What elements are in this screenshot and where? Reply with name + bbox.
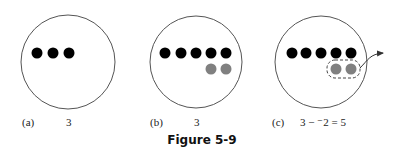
panel-c-expression: 3 − ⁻2 = 5	[300, 116, 346, 128]
positive-chip	[160, 48, 171, 59]
positive-chip	[48, 48, 59, 59]
panel-a-label: (a)	[22, 116, 35, 129]
positive-chip	[316, 48, 327, 59]
panel-c-circle	[275, 16, 367, 108]
negative-chip	[346, 64, 357, 75]
panel-a-circle	[21, 15, 115, 109]
positive-chip	[176, 48, 187, 59]
panel-b-expression: 3	[194, 116, 200, 128]
positive-chip	[331, 48, 342, 59]
figure-caption: Figure 5-9	[167, 133, 236, 147]
positive-chip	[191, 48, 202, 59]
negative-chip	[221, 64, 232, 75]
negative-chip	[331, 64, 342, 75]
positive-chip	[32, 48, 43, 59]
remove-arrow-icon	[360, 53, 383, 68]
positive-chip	[64, 48, 75, 59]
figure-5-9-diagram: (a) 3 (b) 3 (c) 3 − ⁻2 = 5 Figure 5-9	[0, 0, 404, 149]
positive-chip	[206, 48, 217, 59]
panel-b-circle	[150, 16, 242, 108]
positive-chip	[287, 48, 298, 59]
positive-chip	[221, 48, 232, 59]
panel-c-label: (c)	[272, 116, 285, 129]
panel-b-label: (b)	[150, 116, 163, 129]
positive-chip	[346, 48, 357, 59]
panel-a-expression: 3	[66, 116, 72, 128]
positive-chip	[301, 48, 312, 59]
negative-chip	[206, 64, 217, 75]
